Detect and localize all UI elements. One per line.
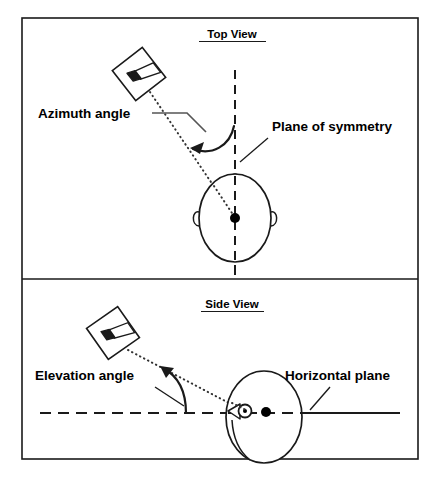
angle-definition-figure: Top View bbox=[0, 0, 436, 481]
horizontal-plane-label: Horizontal plane bbox=[285, 368, 390, 383]
side-view-title: Side View bbox=[205, 298, 259, 310]
elevation-angle-label: Elevation angle bbox=[35, 368, 135, 383]
plane-of-symmetry-label: Plane of symmetry bbox=[272, 119, 393, 134]
head-center-dot-top bbox=[230, 213, 240, 223]
head-center-dot-side bbox=[261, 407, 271, 417]
azimuth-angle-label: Azimuth angle bbox=[38, 106, 131, 121]
top-view-title: Top View bbox=[207, 28, 256, 40]
figure-root: Top View bbox=[0, 0, 436, 481]
